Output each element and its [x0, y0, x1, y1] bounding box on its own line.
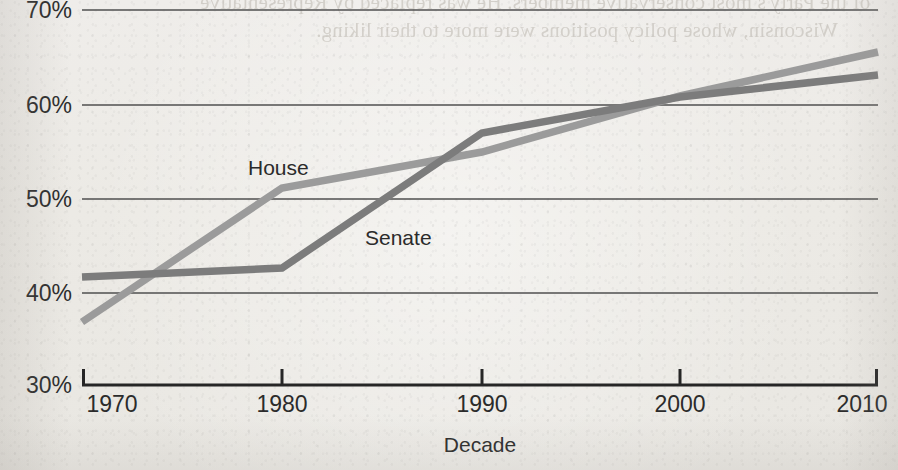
y-tick-label-60: 60%	[26, 92, 72, 118]
chart-canvas: 70% 60% 50% 40% 30% 1970 1980 1990 2000 …	[0, 0, 898, 470]
x-tick-label-2000: 2000	[654, 391, 705, 417]
y-tick-label-30: 30%	[26, 372, 72, 398]
series-label-senate: Senate	[365, 226, 432, 249]
series-line-house	[82, 52, 878, 322]
x-axis-tick-labels: 1970 1980 1990 2000 2010	[86, 391, 887, 417]
series-label-house: House	[248, 156, 309, 179]
scanned-page: of the Party's most conservative members…	[0, 0, 898, 470]
x-tick-label-1970: 1970	[86, 391, 137, 417]
x-tick-label-1990: 1990	[456, 391, 507, 417]
line-chart: 70% 60% 50% 40% 30% 1970 1980 1990 2000 …	[0, 0, 898, 470]
x-axis	[82, 369, 878, 385]
x-tick-label-2010: 2010	[836, 391, 887, 417]
x-axis-title: Decade	[444, 433, 516, 456]
y-tick-label-70: 70%	[26, 0, 72, 23]
y-tick-label-50: 50%	[26, 186, 72, 212]
x-tick-label-1980: 1980	[256, 391, 307, 417]
y-tick-label-40: 40%	[26, 280, 72, 306]
y-axis-tick-labels: 70% 60% 50% 40% 30%	[26, 0, 72, 398]
